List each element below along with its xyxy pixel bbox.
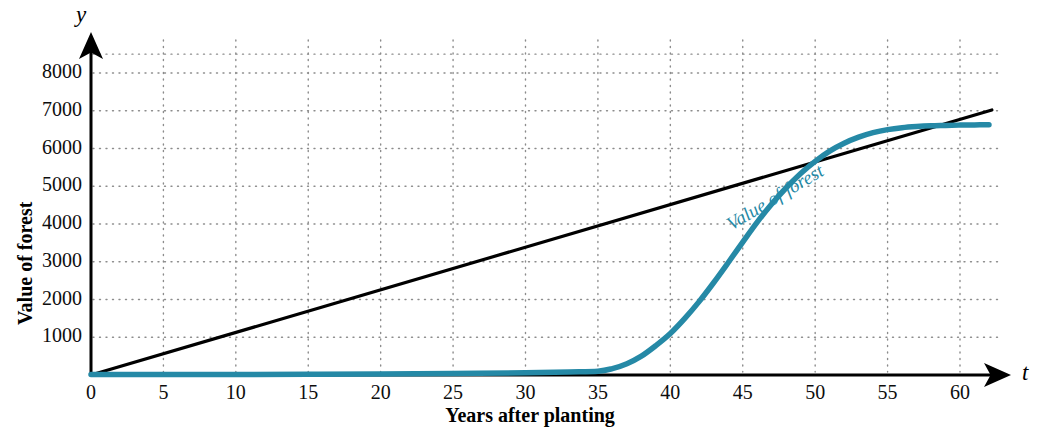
chart-plot-area bbox=[0, 0, 1050, 429]
tangent-line-series bbox=[91, 110, 992, 375]
y-tick-label: 8000 bbox=[0, 60, 82, 83]
y-tick-label: 7000 bbox=[0, 98, 82, 121]
y-variable-label: y bbox=[76, 2, 86, 28]
x-tick-label: 20 bbox=[351, 381, 411, 404]
y-tick-label: 2000 bbox=[0, 287, 82, 310]
x-tick-label: 10 bbox=[206, 381, 266, 404]
y-tick-label: 5000 bbox=[0, 173, 82, 196]
y-tick-label: 3000 bbox=[0, 249, 82, 272]
x-tick-label: 40 bbox=[640, 381, 700, 404]
x-tick-label: 35 bbox=[568, 381, 628, 404]
x-tick-label: 60 bbox=[930, 381, 990, 404]
x-tick-label: 0 bbox=[61, 381, 121, 404]
x-tick-label: 50 bbox=[785, 381, 845, 404]
x-axis-title: Years after planting bbox=[330, 404, 730, 427]
y-tick-label: 6000 bbox=[0, 136, 82, 159]
x-tick-label: 30 bbox=[496, 381, 556, 404]
chart-figure: 10002000300040005000600070008000 0510152… bbox=[0, 0, 1050, 429]
y-tick-label: 4000 bbox=[0, 211, 82, 234]
x-tick-label: 45 bbox=[713, 381, 773, 404]
x-tick-label: 15 bbox=[278, 381, 338, 404]
y-tick-label: 1000 bbox=[0, 324, 82, 347]
grid-horizontal-lines bbox=[93, 54, 1000, 337]
x-tick-label: 55 bbox=[858, 381, 918, 404]
x-tick-label: 25 bbox=[423, 381, 483, 404]
grid-vertical-lines bbox=[163, 40, 960, 372]
t-variable-label: t bbox=[1022, 360, 1028, 386]
y-axis-title: Value of forest bbox=[14, 202, 37, 325]
x-tick-label: 5 bbox=[133, 381, 193, 404]
